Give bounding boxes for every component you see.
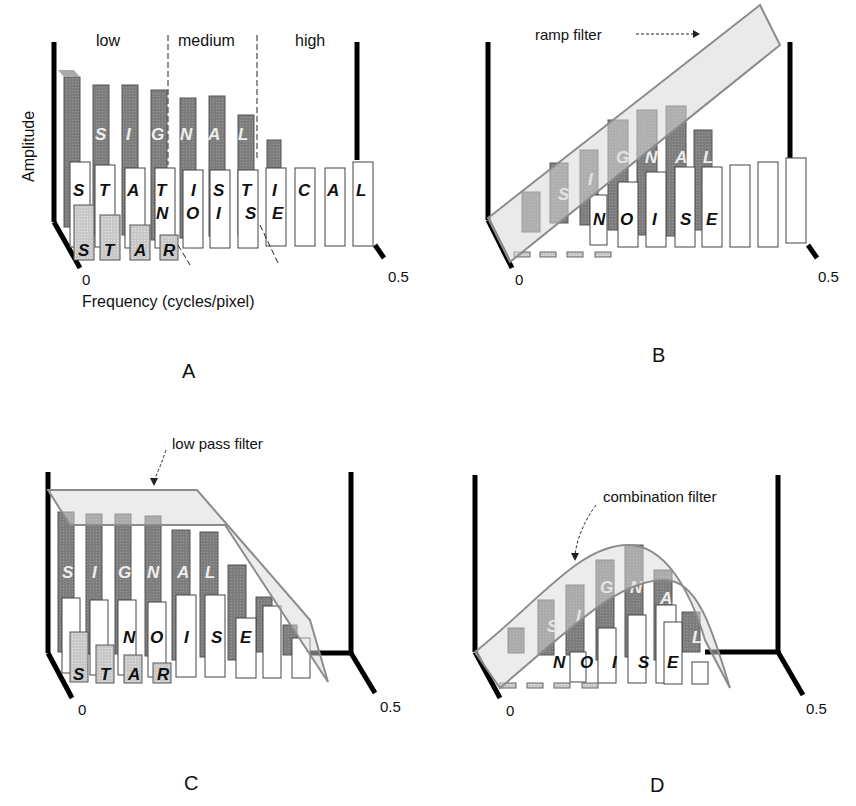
svg-text:S: S xyxy=(95,125,107,144)
svg-text:C: C xyxy=(298,181,311,200)
svg-text:A: A xyxy=(674,148,687,167)
svg-text:E: E xyxy=(706,210,718,229)
svg-text:E: E xyxy=(667,653,679,672)
svg-text:N: N xyxy=(156,204,169,223)
figure-canvas: S I G N A L S T A T I S T xyxy=(0,0,856,806)
svg-text:A: A xyxy=(176,563,189,582)
svg-text:O: O xyxy=(150,628,163,647)
svg-text:N: N xyxy=(553,653,566,672)
panel-c: S I G N A L N O I S E xyxy=(48,435,401,794)
star-bars-b xyxy=(514,252,611,257)
tick-0-5-b: 0.5 xyxy=(818,268,839,285)
panel-label-a: A xyxy=(182,360,196,382)
band-medium: medium xyxy=(178,32,235,49)
svg-text:L: L xyxy=(205,563,215,582)
tick-0-d: 0 xyxy=(506,702,514,719)
low-pass-filter-label: low pass filter xyxy=(172,435,263,452)
svg-text:S: S xyxy=(638,653,650,672)
svg-text:A: A xyxy=(207,125,220,144)
low-pass-filter-arrow xyxy=(154,450,166,480)
svg-text:S: S xyxy=(213,181,225,200)
svg-text:O: O xyxy=(186,204,199,223)
svg-text:N: N xyxy=(593,210,606,229)
svg-text:A: A xyxy=(133,241,146,260)
svg-text:S: S xyxy=(245,204,257,223)
tick-0-b: 0 xyxy=(515,271,523,288)
svg-text:T: T xyxy=(99,181,111,200)
tick-0-c: 0 xyxy=(78,701,86,718)
svg-text:E: E xyxy=(272,204,284,223)
svg-text:O: O xyxy=(620,210,633,229)
svg-text:S: S xyxy=(78,241,90,260)
ramp-filter-label: ramp filter xyxy=(535,26,602,43)
svg-text:N: N xyxy=(147,563,160,582)
y-axis-label: Amplitude xyxy=(20,111,37,182)
panel-label-d: D xyxy=(650,774,664,796)
svg-text:R: R xyxy=(157,665,170,684)
svg-text:A: A xyxy=(126,181,139,200)
svg-text:L: L xyxy=(238,125,248,144)
svg-text:A: A xyxy=(326,181,339,200)
svg-text:L: L xyxy=(356,181,366,200)
tick-0-5-c: 0.5 xyxy=(380,698,401,715)
svg-text:G: G xyxy=(118,563,131,582)
svg-text:A: A xyxy=(127,665,140,684)
svg-text:T: T xyxy=(241,181,253,200)
svg-text:R: R xyxy=(163,241,176,260)
svg-text:S: S xyxy=(211,628,223,647)
panel-label-b: B xyxy=(652,344,665,366)
svg-text:I: I xyxy=(612,653,618,672)
svg-text:E: E xyxy=(240,628,252,647)
x-axis-label: Frequency (cycles/pixel) xyxy=(82,293,255,310)
svg-text:L: L xyxy=(692,628,702,647)
svg-text:O: O xyxy=(580,653,593,672)
panel-label-c: C xyxy=(184,772,198,794)
svg-text:N: N xyxy=(180,125,193,144)
combination-filter-arrow xyxy=(575,505,596,555)
tick-0-5-d: 0.5 xyxy=(806,700,827,717)
svg-text:S: S xyxy=(73,181,85,200)
band-low: low xyxy=(96,32,120,49)
signal-letters-c: S I G N A L xyxy=(62,563,215,582)
svg-text:T: T xyxy=(104,241,116,260)
tick-0: 0 xyxy=(82,271,90,288)
combination-filter-label: combination filter xyxy=(603,488,716,505)
svg-text:S: S xyxy=(73,665,85,684)
tick-0-5: 0.5 xyxy=(388,268,409,285)
band-high: high xyxy=(295,32,325,49)
svg-text:S: S xyxy=(680,210,692,229)
svg-text:T: T xyxy=(156,181,168,200)
star-bars-d xyxy=(500,683,598,688)
svg-text:N: N xyxy=(123,628,136,647)
svg-text:S: S xyxy=(62,563,74,582)
svg-text:L: L xyxy=(703,148,713,167)
panel-b: S I G N A L N O I S E xyxy=(488,5,839,366)
svg-text:T: T xyxy=(100,665,112,684)
svg-text:G: G xyxy=(151,125,164,144)
panel-a: S I G N A L S T A T I S T xyxy=(20,32,409,382)
panel-d: S I G N A L N O I S E comb xyxy=(475,475,827,796)
